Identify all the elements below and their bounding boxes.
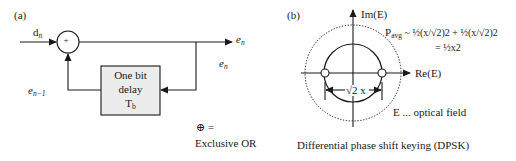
feedback-label: en−1 <box>28 85 45 98</box>
input-label-sub: n <box>39 31 43 40</box>
output-label-sub: n <box>241 38 245 47</box>
delay-box-text: One bit delay Tb <box>101 68 160 114</box>
xor-symbol: + <box>64 36 69 45</box>
p-avg-sub: avg <box>391 31 402 40</box>
p-avg-formula: Pavg ~ ½(x/√2)2 + ½(x/√2)2 <box>385 27 498 40</box>
formula-line-2: = ½x2 <box>435 43 461 53</box>
delay-tb-sub: b <box>132 102 136 111</box>
re-axis-label: Re(E) <box>415 68 441 79</box>
delay-tb-main: T <box>125 97 132 109</box>
formula-line-1: ~ ½(x/√2)2 + ½(x/√2)2 <box>402 27 498 38</box>
tap-line <box>161 42 196 90</box>
delay-line-2: delay <box>101 82 160 96</box>
panel-a-tag: (a) <box>14 10 26 21</box>
delay-line-3: Tb <box>101 96 160 114</box>
input-label: dn <box>33 27 42 40</box>
xor-legend-symbol: ⊕ = <box>196 122 214 133</box>
feedback-label-sub: n−1 <box>33 89 46 98</box>
output-label: en <box>236 34 245 47</box>
symbol-point-right <box>378 69 386 77</box>
xor-legend-text: Exclusive OR <box>195 138 256 149</box>
delay-line-1: One bit <box>101 68 160 82</box>
im-axis-label: Im(E) <box>361 9 387 20</box>
figure-caption: Differential phase shift keying (DPSK) <box>297 140 469 151</box>
feedback-line <box>68 54 101 90</box>
tap-label-sub: n <box>224 62 228 71</box>
distance-label: √2 x <box>345 85 367 96</box>
tap-label: en <box>219 58 228 71</box>
panel-b-tag: (b) <box>287 10 300 21</box>
symbol-point-left <box>321 69 329 77</box>
optical-field-note: E ... optical field <box>393 107 466 118</box>
diagram-canvas <box>0 0 516 161</box>
